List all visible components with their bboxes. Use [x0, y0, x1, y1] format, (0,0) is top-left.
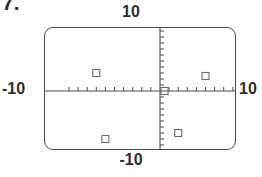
data-point-marker — [102, 136, 109, 143]
data-point-marker — [202, 73, 209, 80]
axis-label-right: 10 — [239, 81, 257, 97]
calculator-screen-frame — [44, 27, 236, 150]
axis-label-top: 10 — [0, 4, 262, 20]
x-axis — [45, 87, 235, 91]
scatter-plot-svg — [45, 28, 235, 149]
graphing-calculator-figure: 7. 10 -10 10 -10 — [0, 0, 262, 177]
data-point-marker — [175, 130, 182, 137]
data-point-marker — [93, 70, 100, 77]
axis-label-left: -10 — [2, 81, 25, 97]
data-point-markers — [93, 70, 209, 143]
axis-label-bottom: -10 — [0, 152, 262, 168]
plot-area — [45, 28, 235, 149]
